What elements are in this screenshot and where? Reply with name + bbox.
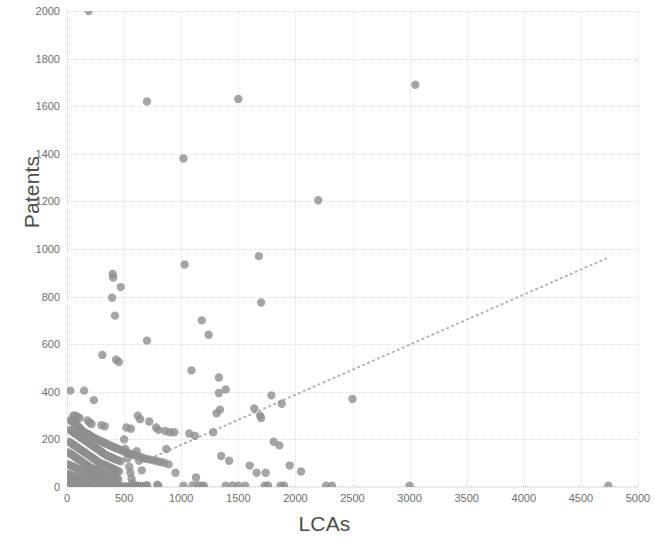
data-point (120, 435, 128, 443)
plot-area (67, 11, 638, 487)
data-point (297, 467, 305, 475)
data-point (198, 316, 206, 324)
x-tick-label: 3500 (437, 492, 497, 504)
data-point (108, 294, 116, 302)
data-point (252, 469, 260, 477)
data-point (275, 441, 283, 449)
x-tick-label: 5000 (608, 492, 655, 504)
data-point (115, 358, 123, 366)
data-point (215, 373, 223, 381)
data-point (80, 386, 88, 394)
data-point (217, 452, 225, 460)
x-tick-label: 1500 (208, 492, 268, 504)
data-point (278, 400, 286, 408)
data-point (225, 457, 233, 465)
data-point (127, 424, 135, 432)
data-point (411, 81, 419, 89)
y-tick-label: 200 (10, 433, 60, 445)
data-point (191, 432, 199, 440)
data-point (405, 482, 413, 487)
data-point (164, 460, 172, 468)
y-tick-label: 1400 (10, 148, 60, 160)
data-point (138, 466, 146, 474)
data-point (255, 252, 263, 260)
data-point (192, 473, 200, 481)
data-point (257, 298, 265, 306)
y-tick-label: 1600 (10, 100, 60, 112)
data-point (143, 97, 151, 105)
x-axis-title: LCAs (0, 512, 649, 536)
data-point (204, 330, 212, 338)
data-point (136, 415, 144, 423)
x-tick-label: 500 (94, 492, 154, 504)
data-point (85, 11, 93, 15)
x-tick-label: 2500 (323, 492, 383, 504)
y-tick-label: 1200 (10, 195, 60, 207)
data-point (212, 409, 220, 417)
y-tick-label: 1800 (10, 53, 60, 65)
data-point (246, 461, 254, 469)
data-point (170, 428, 178, 436)
data-point (135, 457, 143, 465)
data-point (123, 454, 131, 462)
data-point (132, 447, 140, 455)
data-point (314, 196, 322, 204)
data-point (145, 417, 153, 425)
y-tick-label: 600 (10, 338, 60, 350)
data-point (604, 482, 612, 487)
data-point (143, 481, 151, 487)
x-tick-label: 3000 (380, 492, 440, 504)
x-tick-label: 2000 (265, 492, 325, 504)
data-point (215, 389, 223, 397)
data-points (67, 11, 638, 487)
x-tick-label: 4500 (551, 492, 611, 504)
gridline-vertical (638, 11, 639, 487)
y-tick-label: 1000 (10, 243, 60, 255)
data-point (143, 336, 151, 344)
data-point (328, 482, 336, 487)
data-point (179, 482, 187, 487)
data-point (67, 386, 75, 394)
data-point (348, 395, 356, 403)
data-point (162, 445, 170, 453)
data-point (109, 273, 117, 281)
y-tick-label: 400 (10, 386, 60, 398)
data-point (234, 95, 242, 103)
x-tick-label: 1000 (151, 492, 211, 504)
y-tick-label: 2000 (10, 5, 60, 17)
data-point (87, 420, 95, 428)
data-point (121, 445, 129, 453)
data-point (98, 351, 106, 359)
data-point (262, 469, 270, 477)
data-point (267, 391, 275, 399)
x-tick-label: 0 (37, 492, 97, 504)
data-point (180, 260, 188, 268)
data-point (209, 428, 217, 436)
data-point (111, 311, 119, 319)
data-point (171, 469, 179, 477)
data-point (90, 396, 98, 404)
gridline-horizontal (67, 487, 638, 488)
data-point (241, 482, 249, 487)
data-point (100, 422, 108, 430)
data-point (187, 366, 195, 374)
data-point (285, 461, 293, 469)
data-point (257, 414, 265, 422)
data-point (116, 283, 124, 291)
data-point (179, 154, 187, 162)
data-point (250, 404, 258, 412)
y-tick-label: 800 (10, 291, 60, 303)
x-tick-label: 4000 (494, 492, 554, 504)
